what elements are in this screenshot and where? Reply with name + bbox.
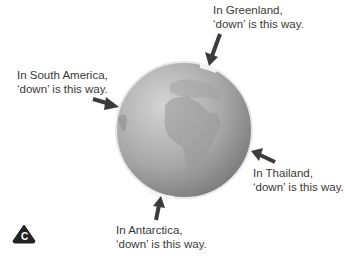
label-line: ‘down’ is this way.	[253, 180, 344, 194]
arrow-antarctica-icon	[153, 196, 165, 220]
label-thailand: In Thailand, ‘down’ is this way.	[253, 166, 344, 194]
label-line: ‘down’ is this way.	[116, 237, 207, 251]
label-line: In Thailand,	[253, 166, 344, 180]
label-line: ‘down’ is this way.	[17, 82, 108, 96]
globe	[116, 62, 252, 199]
arrow-greenland-icon	[205, 34, 220, 66]
label-line: ‘down’ is this way.	[213, 17, 304, 31]
label-line: In South America,	[17, 68, 108, 82]
svg-text:C: C	[21, 231, 28, 242]
arrow-south-america-icon	[93, 97, 119, 110]
gravity-diagram: In Greenland, ‘down’ is this way. In Sou…	[0, 0, 345, 261]
label-south-america: In South America, ‘down’ is this way.	[17, 68, 108, 96]
label-line: In Antarctica,	[116, 223, 207, 237]
section-badge-icon: C	[12, 224, 36, 244]
arrow-thailand-icon	[251, 148, 275, 162]
label-line: In Greenland,	[213, 3, 304, 17]
label-greenland: In Greenland, ‘down’ is this way.	[213, 3, 304, 31]
label-antarctica: In Antarctica, ‘down’ is this way.	[116, 223, 207, 251]
globe-illustration	[0, 0, 345, 261]
